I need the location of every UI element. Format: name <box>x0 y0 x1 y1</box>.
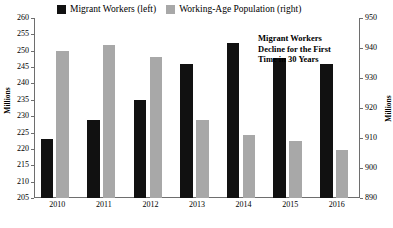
bar-group: 2011 <box>81 18 128 198</box>
y-tick-mark-right <box>360 108 363 109</box>
y-tick-label-right: 890 <box>365 194 391 202</box>
y-tick-label-left: 210 <box>3 178 29 186</box>
bar-group: 2013 <box>174 18 221 198</box>
y-tick-mark-right <box>360 18 363 19</box>
legend-swatch-icon-migrant-workers <box>57 5 66 14</box>
bar-migrant-workers <box>134 100 147 198</box>
y-tick-mark-right <box>360 198 363 199</box>
y-tick-label-left: 230 <box>3 112 29 120</box>
y-tick-label-left: 225 <box>3 129 29 137</box>
annotation-line-3: Time in 30 Years <box>258 54 362 65</box>
bar-working-age-population <box>103 45 116 198</box>
y-tick-label-left: 260 <box>3 14 29 22</box>
y-tick-label-right: 930 <box>365 74 391 82</box>
y-tick-label-left: 245 <box>3 63 29 71</box>
x-axis-tick-label: 2013 <box>174 200 221 209</box>
annotation-line-1: Migrant Workers <box>258 33 362 44</box>
bar-working-age-population <box>196 120 209 198</box>
legend-label-working-age-population: Working-Age Population (right) <box>179 4 301 14</box>
bar-migrant-workers <box>320 64 333 198</box>
y-tick-mark-right <box>360 138 363 139</box>
y-tick-label-right: 920 <box>365 104 391 112</box>
chart-annotation: Migrant Workers Decline for the First Ti… <box>258 33 362 65</box>
bar-working-age-population <box>56 51 69 198</box>
x-axis-tick-label: 2010 <box>34 200 81 209</box>
y-tick-label-left: 255 <box>3 30 29 38</box>
y-tick-label-right: 900 <box>365 164 391 172</box>
bar-working-age-population <box>289 141 302 198</box>
bar-migrant-workers <box>41 139 54 198</box>
x-axis-tick-label: 2015 <box>267 200 314 209</box>
legend-item-working-age-population: Working-Age Population (right) <box>166 4 301 14</box>
x-axis-tick-label: 2011 <box>81 200 128 209</box>
bar-working-age-population <box>336 150 349 198</box>
x-axis-tick-label: 2016 <box>313 200 360 209</box>
annotation-line-2: Decline for the First <box>258 44 362 55</box>
legend-label-migrant-workers: Migrant Workers (left) <box>70 4 156 14</box>
bar-group: 2012 <box>127 18 174 198</box>
y-tick-label-right: 940 <box>365 44 391 52</box>
y-tick-label-left: 215 <box>3 161 29 169</box>
y-tick-mark-right <box>360 78 363 79</box>
bar-working-age-population <box>150 57 163 198</box>
y-tick-label-left: 235 <box>3 96 29 104</box>
y-tick-label-left: 250 <box>3 47 29 55</box>
y-tick-label-right: 910 <box>365 134 391 142</box>
bar-migrant-workers <box>87 120 100 198</box>
y-tick-label-left: 220 <box>3 145 29 153</box>
y-tick-label-right: 950 <box>365 14 391 22</box>
bar-migrant-workers <box>180 64 193 198</box>
bar-migrant-workers <box>227 43 240 198</box>
legend-swatch-icon-working-age-population <box>166 5 175 14</box>
x-axis-tick-label: 2012 <box>127 200 174 209</box>
x-axis-tick-label: 2014 <box>220 200 267 209</box>
bar-group: 2010 <box>34 18 81 198</box>
y-tick-label-left: 240 <box>3 79 29 87</box>
bar-working-age-population <box>243 135 256 198</box>
y-tick-label-left: 205 <box>3 194 29 202</box>
y-tick-mark-right <box>360 168 363 169</box>
y-tick-mark-left <box>31 198 34 199</box>
chart-container: Migrant Workers (left) Working-Age Popul… <box>0 0 393 228</box>
legend-item-migrant-workers: Migrant Workers (left) <box>57 4 156 14</box>
bar-migrant-workers <box>273 58 286 198</box>
chart-legend: Migrant Workers (left) Working-Age Popul… <box>57 2 301 16</box>
